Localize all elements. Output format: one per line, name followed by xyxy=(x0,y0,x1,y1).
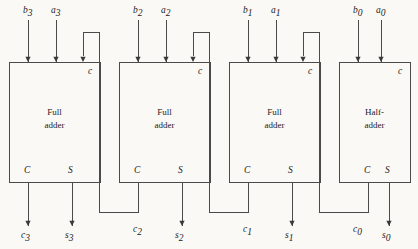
input-arrowhead-in-a0 xyxy=(378,57,383,62)
input-label-in-b2: b2 xyxy=(133,5,143,18)
output-label-out-s0-subscript: 0 xyxy=(386,233,391,243)
input-arrowhead-in-b3 xyxy=(25,57,30,62)
output-arrowhead-out-s2 xyxy=(179,221,184,226)
sum-port-adder-2: S xyxy=(178,165,183,175)
carry-arrowhead-carry-2-to-3 xyxy=(80,57,85,62)
carry-label-carry-0-to-1: c0 xyxy=(353,224,362,237)
carry-in-port-adder-1: c xyxy=(308,66,313,76)
output-label-out-s1: s1 xyxy=(285,230,293,243)
input-arrowhead-in-b0 xyxy=(355,57,360,62)
carry-out-port-adder-0: C xyxy=(364,165,371,175)
input-label-in-a3: a3 xyxy=(51,5,61,18)
block-label-line1-adder-3: Full xyxy=(47,107,62,117)
carry-in-port-adder-2: c xyxy=(198,66,203,76)
label-layer: FulladdercCSFulladdercCSFulladdercCSHalf… xyxy=(21,5,403,243)
input-label-in-b1-subscript: 1 xyxy=(248,8,253,18)
input-label-in-a0-subscript: 0 xyxy=(381,8,386,18)
output-arrowhead-out-s1 xyxy=(289,221,294,226)
sum-port-adder-1: S xyxy=(288,165,293,175)
carry-in-port-adder-3: c xyxy=(88,66,93,76)
carry-wire-carry-2-to-3 xyxy=(83,32,138,212)
carry-label-carry-2-to-3: c2 xyxy=(133,224,142,237)
wire-layer xyxy=(25,20,391,226)
input-label-in-a3-subscript: 3 xyxy=(55,8,61,18)
carry-arrowhead-carry-0-to-1 xyxy=(300,57,305,62)
output-arrowhead-out-s0 xyxy=(386,221,391,226)
input-arrowhead-in-b2 xyxy=(135,57,140,62)
adder-diagram: FulladdercCSFulladdercCSFulladdercCSHalf… xyxy=(0,0,418,249)
carry-out-port-adder-2: C xyxy=(134,165,141,175)
input-arrowhead-in-b1 xyxy=(245,57,250,62)
carry-label-carry-1-to-2-subscript: 1 xyxy=(247,227,252,237)
input-label-in-b1: b1 xyxy=(243,5,253,18)
block-label-line1-adder-1: Full xyxy=(267,107,282,117)
carry-label-carry-1-to-2: c1 xyxy=(243,224,252,237)
carry-wire-carry-1-to-2 xyxy=(193,32,248,212)
block-label-line2-adder-2: adder xyxy=(155,120,175,130)
input-label-in-a2: a2 xyxy=(161,5,171,18)
input-label-in-b0-subscript: 0 xyxy=(358,8,363,18)
input-label-in-b0: b0 xyxy=(353,5,363,18)
carry-out-port-adder-1: C xyxy=(244,165,251,175)
output-label-out-s3-subscript: 3 xyxy=(68,233,74,243)
carry-label-carry-0-to-1-subscript: 0 xyxy=(357,227,362,237)
input-label-in-a0: a0 xyxy=(376,5,386,18)
block-label-line1-adder-2: Full xyxy=(157,107,172,117)
output-label-out-s2: s2 xyxy=(175,230,184,243)
output-label-out-c3: c3 xyxy=(21,230,30,243)
output-arrowhead-out-s3 xyxy=(69,221,74,226)
input-arrowhead-in-a3 xyxy=(53,57,58,62)
output-arrowhead-out-c3 xyxy=(25,221,30,226)
input-label-in-a1-subscript: 1 xyxy=(276,8,281,18)
input-arrowhead-in-a2 xyxy=(163,57,168,62)
sum-port-adder-0: S xyxy=(385,165,390,175)
block-label-line2-adder-3: adder xyxy=(45,120,65,130)
block-label-line2-adder-1: adder xyxy=(265,120,285,130)
input-label-in-b2-subscript: 2 xyxy=(138,8,143,18)
carry-label-carry-2-to-3-subscript: 2 xyxy=(137,227,142,237)
block-label-line1-adder-0: Half- xyxy=(365,107,384,117)
output-label-out-s0: s0 xyxy=(382,230,391,243)
output-label-out-c3-subscript: 3 xyxy=(24,233,30,243)
output-label-out-s2-subscript: 2 xyxy=(179,233,184,243)
input-label-in-a1: a1 xyxy=(271,5,281,18)
carry-out-port-adder-3: C xyxy=(24,165,31,175)
circuit-canvas: FulladdercCSFulladdercCSFulladdercCSHalf… xyxy=(0,0,418,249)
input-label-in-b3: b3 xyxy=(23,5,33,18)
carry-arrowhead-carry-1-to-2 xyxy=(190,57,195,62)
block-label-line2-adder-0: adder xyxy=(365,120,385,130)
input-label-in-b3-subscript: 3 xyxy=(27,8,33,18)
input-label-in-a2-subscript: 2 xyxy=(166,8,171,18)
output-label-out-s3: s3 xyxy=(65,230,74,243)
sum-port-adder-3: S xyxy=(68,165,73,175)
input-arrowhead-in-a1 xyxy=(273,57,278,62)
output-label-out-s1-subscript: 1 xyxy=(289,233,294,243)
carry-in-port-adder-0: c xyxy=(398,66,403,76)
